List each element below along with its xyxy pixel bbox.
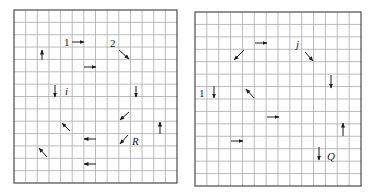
arrow-up-left-b-icon	[39, 148, 47, 157]
label-j: j	[294, 38, 299, 50]
arrow-up-left-mid-icon	[246, 89, 254, 98]
label-R: R	[131, 135, 139, 147]
label-i: i	[65, 85, 68, 97]
arrow-2-down-right-icon	[119, 50, 129, 59]
arrow-R-down-left-icon	[120, 135, 128, 144]
label-Q: Q	[327, 150, 335, 162]
arrow-j-down-right-icon	[305, 52, 313, 61]
label-2: 2	[110, 37, 116, 49]
left-vector-field-grid: 12iR	[14, 10, 177, 183]
arrow-up-left-a-icon	[62, 123, 70, 131]
right-vector-field-grid: j1Q	[195, 12, 361, 186]
diagram-canvas: 12iR j1Q	[0, 0, 375, 194]
arrow-down-left-a-icon	[120, 112, 129, 120]
label-1: 1	[64, 36, 70, 48]
label-1: 1	[199, 87, 205, 99]
